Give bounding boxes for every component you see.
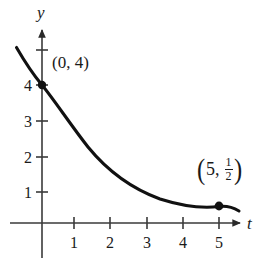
exponential-decay-figure: y t 1 2 3 4 5 1 2 3 4 (0, 4) ( 5 , 1 2 ) (0, 0, 262, 267)
annotation-close-paren: ) (233, 157, 241, 182)
annotation-x-value: 5 (206, 160, 215, 178)
fraction-numerator: 1 (225, 156, 233, 168)
annotation-fraction: 1 2 (225, 156, 233, 182)
annotation-comma: , (215, 160, 220, 178)
data-point-0-4 (38, 81, 46, 89)
x-tick-label-1: 1 (67, 235, 81, 251)
y-tick-label-3: 3 (18, 114, 32, 130)
x-tick-label-5: 5 (212, 235, 226, 251)
annotation-point-0-4: (0, 4) (52, 54, 89, 71)
exponential-curve (17, 48, 240, 212)
t-axis-label: t (247, 215, 252, 232)
y-tick-label-1: 1 (18, 185, 32, 201)
x-tick-label-4: 4 (176, 235, 190, 251)
annotation-open-paren: ( (197, 157, 205, 182)
data-point-5-half (215, 202, 224, 211)
y-tick-label-4: 4 (18, 78, 32, 94)
x-tick-label-2: 2 (103, 235, 117, 251)
plot-canvas (0, 0, 262, 267)
fraction-denominator: 2 (225, 170, 233, 182)
y-axis-label: y (37, 4, 45, 21)
x-tick-label-3: 3 (140, 235, 154, 251)
annotation-point-5-half: ( 5 , 1 2 ) (196, 156, 243, 182)
y-tick-label-2: 2 (18, 150, 32, 166)
